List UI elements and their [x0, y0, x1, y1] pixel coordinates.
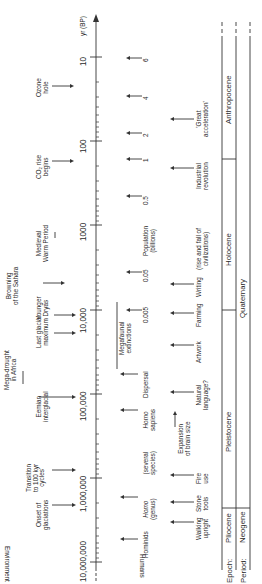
- env-ozone-hole: Ozonehole: [36, 78, 49, 97]
- tick-10: 10: [80, 57, 89, 66]
- human-several-species: (severalspecies): [143, 451, 156, 475]
- culture-civilizations: (rise and fall ofcivilizations): [196, 228, 209, 270]
- tick-10000000: 10,000,000: [80, 541, 89, 582]
- pop-2: 2: [143, 133, 150, 137]
- culture-stone-tools: Stonetools: [196, 495, 209, 512]
- tick-1000000: 1,000,000: [80, 476, 89, 512]
- human-dispersal: Dispersal: [143, 371, 150, 398]
- env-lgm: Last glacialmaximum: [36, 316, 49, 348]
- pop-6: 6: [143, 58, 150, 62]
- epoch-anthropocene: Anthropocene: [225, 75, 233, 124]
- population-arrows: [128, 58, 142, 310]
- env-medieval-warm: MedievalWarm Period: [36, 225, 49, 262]
- row-label-epoch: Epoch:: [226, 559, 234, 583]
- culture-fire: Fireuse: [196, 473, 209, 484]
- period-neogene: Neogene: [239, 511, 247, 543]
- species-arrows: [122, 374, 138, 539]
- pop-0-05: 0.05: [143, 270, 150, 282]
- culture-artwork: Artwork: [196, 341, 203, 363]
- human-homo-genus: Homo(genus): [143, 498, 156, 520]
- tick-100: 100: [80, 139, 89, 153]
- human-homo-sapiens: Homosapiens: [143, 409, 156, 431]
- culture-language: Naturallanguage?: [196, 380, 209, 410]
- tick-1000: 1000: [80, 223, 89, 241]
- env-onset-glaciations: Onset ofglaciations: [36, 500, 49, 530]
- human-megafaunal: Megafaunalextinctions: [119, 322, 132, 355]
- epoch-holocene: Holocene: [225, 233, 233, 266]
- env-eemian: Eemianinterglacial: [36, 391, 49, 422]
- pop-1: 1: [143, 158, 150, 162]
- human-hominids: Hominids: [143, 531, 150, 558]
- env-transition: Transitionto 100 kyrcycles: [26, 464, 46, 492]
- axis-label: yr (BP): [80, 16, 87, 36]
- culture-brain-size: Expansionof brain size: [178, 422, 191, 456]
- culture-farming: Farming: [196, 304, 203, 327]
- population-label: Population(billions): [143, 226, 156, 256]
- epoch-pliocene: Pliocene: [225, 513, 233, 543]
- culture-walking: Walkingupright: [196, 518, 209, 541]
- pop-4: 4: [143, 96, 150, 100]
- culture-arrows: [172, 119, 194, 522]
- period-quaternary: Quaternary: [239, 279, 247, 318]
- env-mega-drought: Mega-droughtin Africa: [4, 350, 17, 390]
- env-co2-rise: CO₂ risebegins: [36, 155, 49, 179]
- row-label-period: Period:: [240, 558, 248, 583]
- tick-100000: 100,000: [80, 391, 89, 421]
- pop-0-005: 0.005: [143, 307, 150, 323]
- row-label-environment: Environment: [3, 546, 10, 582]
- pop-0-5: 0.5: [143, 196, 150, 205]
- env-sahara: Browningof the Sahara: [6, 267, 19, 305]
- epoch-pleistocene: Pleistocene: [225, 412, 233, 452]
- culture-industrial: Industrialrevolution: [196, 162, 209, 190]
- tick-10000: 10,000: [80, 308, 89, 333]
- culture-great-acceleration: 'Greatacceleration': [196, 101, 209, 137]
- axis-arrowhead-icon: [93, 14, 99, 22]
- culture-writing: Writing: [196, 277, 203, 297]
